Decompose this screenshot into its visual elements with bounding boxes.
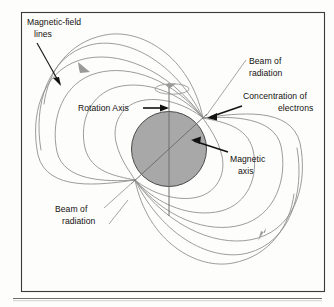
rotation-axis-label: Rotation Axis xyxy=(78,103,129,113)
concentration-of-electrons-label-line2: electrons xyxy=(278,103,313,113)
beam-of-radiation-top-label-line1: Beam of xyxy=(249,56,282,66)
beam-of-radiation-top-label-line2: radiation xyxy=(249,68,283,78)
beam-of-radiation-bottom-label-line2: radiation xyxy=(62,216,96,226)
magnetic-axis-label-line1: Magnetic xyxy=(230,154,266,164)
magnetic-field-lines-label-line1: Magnetic-field xyxy=(27,17,81,27)
concentration-of-electrons-label-line1: Concentration of xyxy=(243,91,307,101)
beam-of-radiation-bottom-label-line1: Beam of xyxy=(55,204,88,214)
magnetic-field-lines-label-line2: lines xyxy=(34,29,52,39)
figure-canvas: Magnetic-field lines Rotation Axis Beam … xyxy=(0,0,334,307)
magnetic-axis-label-line2: axis xyxy=(238,166,253,176)
